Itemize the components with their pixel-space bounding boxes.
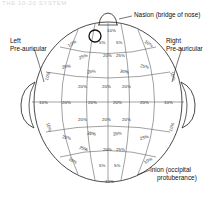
percentage-label: 20%: [122, 118, 131, 122]
percentage-label: 10%: [105, 180, 114, 184]
inion-label-line2: protuberance): [157, 174, 197, 182]
inion-label-line1: Inion (occipital: [150, 166, 191, 174]
percentage-label: 10%: [164, 101, 173, 105]
percentage-label: 20%: [78, 85, 87, 89]
percentage-label: 20%: [102, 118, 111, 122]
percentage-label: 20%: [140, 101, 149, 105]
right-preauricular-label-line2: Pre-auricular: [166, 45, 203, 53]
percentage-label: 25%: [116, 54, 125, 58]
percentage-label: 20%: [78, 118, 87, 122]
percentage-label: 10%: [39, 101, 48, 105]
eeg-1020-diagram: THE 10-20 SYSTEM: [0, 0, 218, 197]
percentage-label: 5%: [99, 164, 105, 168]
percentage-label: 20%: [62, 101, 71, 105]
right-preauricular-label-line1: Right: [166, 37, 181, 45]
percentage-label: 25%: [116, 148, 125, 152]
percentage-label: 5%: [114, 164, 120, 168]
nasion-label: Nasion (bridge of nose): [134, 11, 200, 19]
left-ear-outline: [21, 82, 35, 128]
left-preauricular-label-line1: Left: [10, 37, 21, 45]
percentage-label: 5%: [116, 41, 122, 45]
nasion-leader-line: [119, 16, 132, 19]
percentage-label: 20%: [103, 148, 112, 152]
percentage-label: 10%: [107, 29, 116, 33]
right-ear-outline: [181, 82, 195, 128]
percentage-label: 20%: [113, 101, 122, 105]
percentage-label: 20%: [102, 85, 111, 89]
left-preauricular-label-line2: Pre-auricular: [10, 45, 47, 53]
percentage-label: 20%: [103, 54, 112, 58]
percentage-label: 20%: [122, 85, 131, 89]
percentage-label: 5%: [99, 41, 105, 45]
percentage-label: 20%: [88, 101, 97, 105]
